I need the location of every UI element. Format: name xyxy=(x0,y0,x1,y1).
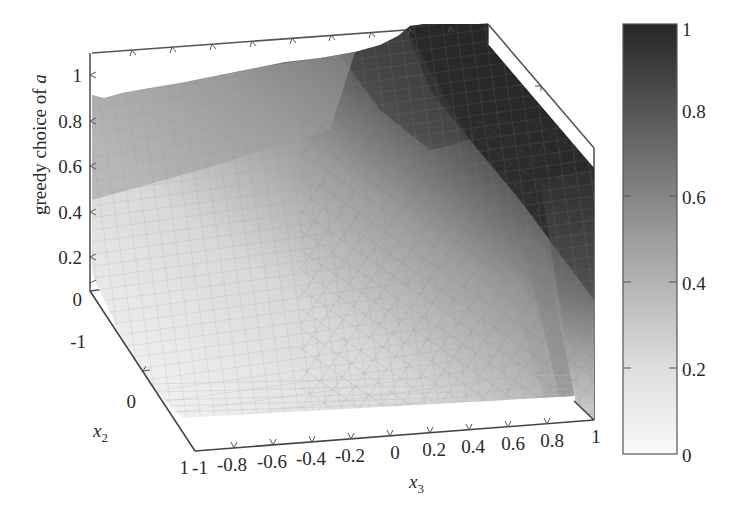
x-tick-0.2: 0.2 xyxy=(422,439,446,460)
z-tick-labels: 1 0.8 0.6 0.4 0.2 0 xyxy=(58,65,82,310)
z-tick-0.6: 0.6 xyxy=(58,156,82,177)
x-tick-neg1: -1 xyxy=(192,457,208,478)
cb-tick-1: 1 xyxy=(682,19,692,40)
x-tick-neg0.2: -0.2 xyxy=(335,445,365,466)
z-tick-0: 0 xyxy=(73,289,83,310)
x-tick-0.6: 0.6 xyxy=(501,433,525,454)
colorbar: 1 0.8 0.6 0.4 0.2 0 xyxy=(623,19,706,466)
y-tick-neg1: -1 xyxy=(70,331,86,352)
x-tick-0.8: 0.8 xyxy=(540,430,564,451)
surface-plot: 1 0.8 0.6 0.4 0.2 0 greedy choice of a -… xyxy=(0,0,729,518)
z-tick-0.4: 0.4 xyxy=(58,202,82,223)
cb-tick-0.4: 0.4 xyxy=(682,273,706,294)
z-tick-0.2: 0.2 xyxy=(58,247,82,268)
cb-tick-0.2: 0.2 xyxy=(682,359,706,380)
z-tick-0.8: 0.8 xyxy=(58,111,82,132)
x-tick-1: 1 xyxy=(591,426,601,447)
z-tick-1: 1 xyxy=(73,65,83,86)
colorbar-gradient xyxy=(623,24,677,454)
x-tick-0.4: 0.4 xyxy=(461,436,485,457)
cb-tick-0: 0 xyxy=(682,445,692,466)
z-axis-title: greedy choice of a xyxy=(29,74,50,215)
x-tick-neg0.6: -0.6 xyxy=(257,451,287,472)
y-tick-1: 1 xyxy=(180,457,190,478)
x-tick-neg0.4: -0.4 xyxy=(296,448,327,469)
y-tick-0: 0 xyxy=(127,391,137,412)
x-axis-title: x3 xyxy=(408,471,424,496)
surface xyxy=(80,20,600,430)
x-tick-neg0.8: -0.8 xyxy=(217,454,247,475)
x-tick-labels: -1 -0.8 -0.6 -0.4 -0.2 0 0.2 0.4 0.6 0.8… xyxy=(192,426,601,478)
cb-tick-0.6: 0.6 xyxy=(682,187,706,208)
cb-tick-0.8: 0.8 xyxy=(682,101,706,122)
y-axis-title: x2 xyxy=(92,420,108,445)
x-tick-0: 0 xyxy=(390,442,400,463)
